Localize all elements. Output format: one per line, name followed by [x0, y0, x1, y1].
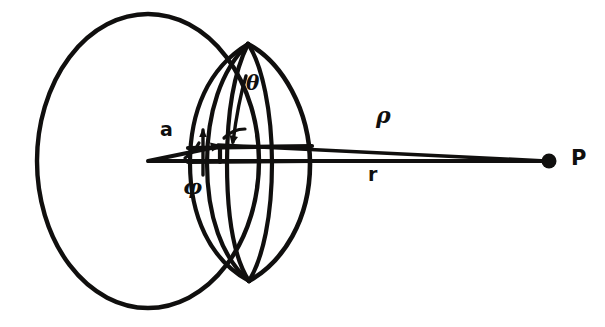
- point-P-dot: [542, 154, 557, 169]
- figure-root: a φ θ ρ r P: [0, 0, 605, 327]
- label-distance-rho: ρ: [376, 104, 391, 126]
- rho-line: [218, 145, 546, 161]
- angle-phi-arrowhead: [199, 128, 207, 137]
- label-vector-a: a: [160, 120, 173, 139]
- label-angle-theta: θ: [246, 73, 259, 93]
- label-angle-phi: φ: [183, 176, 202, 197]
- spherical-coordinates-diagram: [0, 0, 605, 327]
- label-point-p: P: [571, 148, 586, 169]
- label-vector-r: r: [368, 165, 377, 184]
